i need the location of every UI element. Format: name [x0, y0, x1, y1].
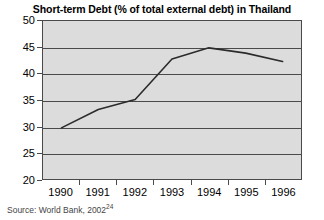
- x-tick-label-1995: 1995: [234, 186, 258, 198]
- x-tick-mark-2: [116, 180, 117, 185]
- x-tick-mark-1: [79, 180, 80, 185]
- chart-figure: Short-term Debt (% of total external deb…: [0, 0, 324, 220]
- x-tick-mark-5: [228, 180, 229, 185]
- y-tick-label-35: 35: [23, 94, 35, 106]
- y-tick-label-40: 40: [23, 67, 35, 79]
- data-line-series: [61, 48, 282, 128]
- chart-title: Short-term Debt (% of total external deb…: [0, 3, 324, 15]
- source-text: Source: World Bank, 2002: [7, 205, 106, 215]
- x-axis: 1990199119921993199419951996: [42, 180, 302, 204]
- y-tick-label-45: 45: [23, 41, 35, 53]
- y-tick-label-50: 50: [23, 14, 35, 26]
- y-axis: 20253035404550: [0, 20, 42, 180]
- y-tick-label-30: 30: [23, 121, 35, 133]
- x-tick-label-1990: 1990: [48, 186, 72, 198]
- y-tick-label-20: 20: [23, 174, 35, 186]
- data-line-svg: [43, 21, 301, 179]
- x-tick-mark-6: [265, 180, 266, 185]
- x-tick-mark-4: [191, 180, 192, 185]
- source-note: Source: World Bank, 200224: [7, 203, 113, 215]
- x-tick-mark-3: [153, 180, 154, 185]
- source-footnote-marker: 24: [106, 203, 113, 210]
- y-tick-label-25: 25: [23, 147, 35, 159]
- x-tick-label-1994: 1994: [197, 186, 221, 198]
- x-tick-label-1992: 1992: [123, 186, 147, 198]
- x-tick-label-1996: 1996: [271, 186, 295, 198]
- x-tick-label-1991: 1991: [85, 186, 109, 198]
- x-tick-label-1993: 1993: [160, 186, 184, 198]
- plot-area: [42, 20, 302, 180]
